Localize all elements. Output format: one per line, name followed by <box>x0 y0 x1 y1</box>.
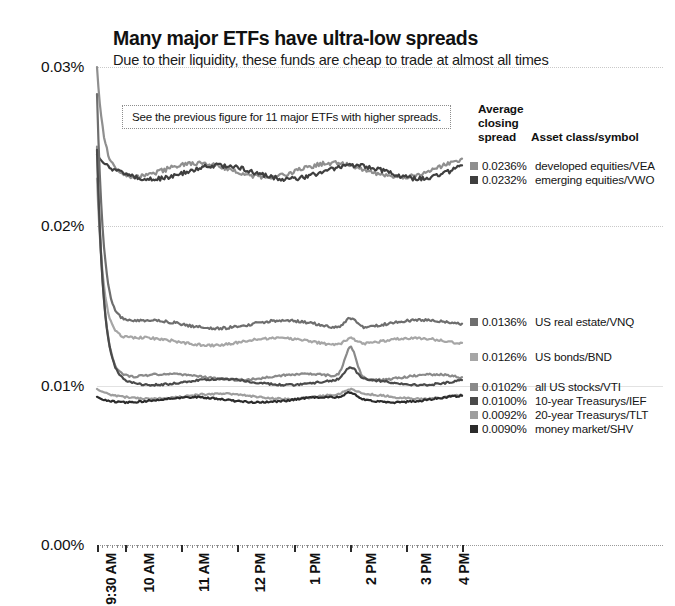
x-tick-minor <box>427 545 428 548</box>
x-tick-minor <box>172 545 173 548</box>
x-tick-label-2: 11 AM <box>196 553 212 592</box>
x-tick-minor <box>187 545 188 548</box>
x-tick-minor <box>277 545 278 548</box>
x-tick-major-3 <box>237 545 239 552</box>
x-tick-minor <box>457 545 458 548</box>
x-tick-minor <box>127 545 128 548</box>
x-tick-minor <box>102 545 103 548</box>
legend-value-vti: 0.0102% <box>482 380 531 393</box>
legend-item-tlt[interactable]: 0.0092% 20-year Treasurys/TLT <box>470 408 648 421</box>
legend-header-line3: spread <box>478 130 516 144</box>
x-tick-minor <box>117 545 118 548</box>
legend-swatch-bnd <box>470 353 478 361</box>
x-tick-minor <box>217 545 218 548</box>
legend-item-ief[interactable]: 0.0100% 10-year Treasurys/IEF <box>470 394 647 407</box>
x-tick-minor <box>132 545 133 548</box>
x-tick-minor <box>442 545 443 548</box>
x-tick-minor <box>377 545 378 548</box>
legend-label-vwo: emerging equities/VWO <box>535 173 654 186</box>
legend-value-tlt: 0.0092% <box>482 408 531 421</box>
x-tick-minor <box>302 545 303 548</box>
legend-item-vwo[interactable]: 0.0232% emerging equities/VWO <box>470 173 654 186</box>
x-tick-minor <box>402 545 403 548</box>
x-tick-label-0: 9:30 AM <box>103 553 119 605</box>
series-line-VEA <box>97 67 462 179</box>
x-tick-minor <box>417 545 418 548</box>
legend-item-vti[interactable]: 0.0102% all US stocks/VTI <box>470 380 621 393</box>
x-tick-minor <box>267 545 268 548</box>
x-tick-minor <box>287 545 288 548</box>
x-tick-minor <box>122 545 123 548</box>
legend-swatch-vti <box>470 383 478 391</box>
x-tick-minor <box>242 545 243 548</box>
legend-item-vea[interactable]: 0.0236% developed equities/VEA <box>470 159 655 172</box>
legend-swatch-tlt <box>470 411 478 419</box>
x-tick-minor <box>152 545 153 548</box>
x-tick-minor <box>227 545 228 548</box>
legend-label-shv: money market/SHV <box>535 422 633 435</box>
x-tick-label-4: 1 PM <box>307 553 323 585</box>
series-line-VTI <box>97 147 462 381</box>
x-tick-minor <box>347 545 348 548</box>
x-tick-minor <box>432 545 433 548</box>
legend-label-vnq: US real estate/VNQ <box>535 315 634 328</box>
legend-label-vti: all US stocks/VTI <box>535 380 621 393</box>
x-tick-minor <box>262 545 263 548</box>
x-tick-minor <box>357 545 358 548</box>
x-tick-major-5 <box>350 545 352 552</box>
chart-figure: Many major ETFs have ultra-low spreads D… <box>0 0 675 606</box>
x-tick-minor <box>212 545 213 548</box>
legend-value-ief: 0.0100% <box>482 394 531 407</box>
legend-value-vea: 0.0236% <box>482 159 531 172</box>
x-tick-minor <box>422 545 423 548</box>
x-tick-minor <box>232 545 233 548</box>
x-tick-minor <box>342 545 343 548</box>
x-tick-minor <box>202 545 203 548</box>
series-line-IEF <box>97 150 462 386</box>
series-plot <box>0 0 675 606</box>
x-tick-minor <box>437 545 438 548</box>
x-tick-minor <box>392 545 393 548</box>
x-tick-minor <box>352 545 353 548</box>
x-tick-minor <box>332 545 333 548</box>
x-tick-minor <box>167 545 168 548</box>
x-tick-label-5: 2 PM <box>363 553 379 585</box>
x-tick-minor <box>142 545 143 548</box>
legend-label-tlt: 20-year Treasurys/TLT <box>535 408 648 421</box>
x-tick-minor <box>257 545 258 548</box>
x-tick-minor <box>312 545 313 548</box>
x-tick-minor <box>412 545 413 548</box>
x-tick-label-7: 4 PM <box>456 553 472 585</box>
x-tick-minor <box>447 545 448 548</box>
legend-item-shv[interactable]: 0.0090% money market/SHV <box>470 422 633 435</box>
x-tick-minor <box>162 545 163 548</box>
x-tick-minor <box>367 545 368 548</box>
x-tick-major-1 <box>125 545 127 552</box>
legend-label-bnd: US bonds/BND <box>535 350 612 363</box>
legend-header-line2: closing <box>478 116 519 130</box>
x-tick-minor <box>197 545 198 548</box>
series-line-TLT <box>97 389 462 400</box>
x-tick-minor <box>372 545 373 548</box>
x-tick-minor <box>177 545 178 548</box>
x-tick-major-7 <box>462 545 464 552</box>
x-tick-minor <box>247 545 248 548</box>
x-tick-minor <box>327 545 328 548</box>
x-tick-minor <box>397 545 398 548</box>
legend-item-vnq[interactable]: 0.0136% US real estate/VNQ <box>470 315 634 328</box>
legend-value-vnq: 0.0136% <box>482 315 531 328</box>
series-line-VNQ <box>97 94 462 329</box>
x-tick-label-1: 10 AM <box>141 553 157 593</box>
x-tick-minor <box>382 545 383 548</box>
x-tick-major-6 <box>406 545 408 552</box>
x-tick-minor <box>317 545 318 548</box>
x-tick-major-0 <box>97 545 99 552</box>
x-tick-major-2 <box>181 545 183 552</box>
x-tick-minor <box>362 545 363 548</box>
x-tick-minor <box>322 545 323 548</box>
legend-header-asset-class: Asset class/symbol <box>531 130 639 144</box>
legend-item-bnd[interactable]: 0.0126% US bonds/BND <box>470 350 612 363</box>
legend-swatch-vwo <box>470 176 478 184</box>
x-tick-minor <box>337 545 338 548</box>
legend-value-bnd: 0.0126% <box>482 350 531 363</box>
